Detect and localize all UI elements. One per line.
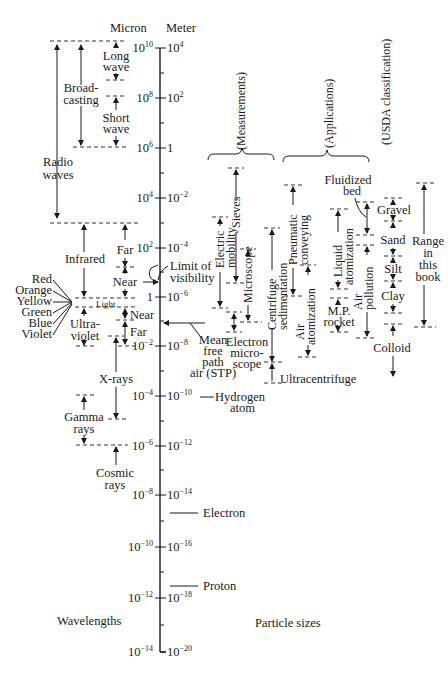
- micron-tick-label: 10−10: [128, 539, 153, 554]
- electron-label: Electron: [203, 506, 246, 520]
- sieves-label: Sieves: [229, 196, 243, 228]
- hydrogen-atom-label-2: atom: [230, 401, 255, 415]
- particle-size-wavelength-chart: Micron Meter 1010104108102106110410−2102…: [0, 0, 448, 676]
- micron-tick-label: 1010: [133, 40, 154, 55]
- micron-tick-label: 102: [137, 240, 154, 255]
- radio-waves-label-1: Radio: [43, 155, 73, 169]
- ultracentrifuge-label: Ultracentrifuge: [280, 372, 357, 386]
- meter-tick-label: 10−4: [167, 240, 188, 255]
- sand-label: Sand: [381, 233, 407, 247]
- micron-tick-label: 10−2: [132, 338, 153, 353]
- wavelengths-caption: Wavelengths: [57, 614, 121, 628]
- log-axis: 1010104108102106110410−210210−4110−610−2…: [128, 40, 192, 659]
- micron-header: Micron: [110, 21, 148, 35]
- group-headers: (Measurements) (Applications) (USDA clas…: [208, 39, 393, 162]
- infrared-label: Infrared: [65, 252, 106, 266]
- clay-label: Clay: [381, 289, 405, 303]
- short-wave-label-2: wave: [103, 122, 130, 136]
- electron-microscope-label-3: scope: [233, 357, 262, 371]
- meter-tick-label: 102: [167, 90, 184, 105]
- gamma-rays-label-2: rays: [74, 422, 95, 436]
- micron-tick-label: 10−14: [128, 644, 153, 659]
- ultraviolet-label-2: violet: [71, 329, 100, 343]
- micron-tick-label: 108: [137, 90, 154, 105]
- mp-rocket-label-2: rocket: [323, 315, 355, 329]
- meter-tick-label: 1: [167, 141, 173, 155]
- micron-tick-label: 10−6: [132, 438, 153, 453]
- pneumatic-conveying-label-2: conveying: [297, 215, 311, 265]
- light-label: Light: [96, 299, 116, 309]
- uv-far-label: Far: [130, 325, 148, 339]
- limit-of-visibility-label-2: visibility: [170, 271, 215, 285]
- color-violet: Violet: [22, 327, 53, 341]
- particle-sizes-caption: Particle sizes: [255, 616, 321, 630]
- meter-tick-label: 10−18: [167, 590, 192, 605]
- micron-tick-label: 1: [147, 290, 153, 304]
- fluidized-bed-label-2: bed: [343, 184, 362, 198]
- radio-waves-label-2: waves: [42, 168, 73, 182]
- meter-tick-label: 10−8: [167, 338, 188, 353]
- x-rays-label: X-rays: [99, 372, 133, 386]
- usda-header: (USDA classification): [379, 39, 393, 145]
- air-atomization-label-2: atomization: [304, 288, 318, 345]
- micron-tick-label: 10−12: [128, 590, 153, 605]
- measurements-header: (Measurements): [234, 72, 248, 150]
- electric-mobility-label-2: mobility: [224, 227, 238, 268]
- visible-colors: Red Orange Yellow Green Blue Violet: [15, 272, 72, 341]
- application-ranges: Pneumatic conveying Air atomization Liqu…: [284, 173, 376, 357]
- meter-tick-label: 10−2: [167, 190, 188, 205]
- air-pollution-label-2: pollution: [362, 267, 376, 310]
- meter-tick-label: 10−20: [167, 644, 192, 659]
- micron-tick-label: 106: [137, 140, 154, 155]
- meter-tick-label: 10−14: [167, 487, 192, 502]
- mean-free-path-label-4: air (STP): [190, 366, 236, 380]
- meter-tick-label: 10−10: [167, 388, 192, 403]
- range-label-4: book: [416, 270, 442, 284]
- meter-tick-label: 104: [167, 40, 184, 55]
- cosmic-rays-label-2: rays: [105, 478, 126, 492]
- proton-label: Proton: [203, 579, 237, 593]
- microscope-label: Microscope: [241, 246, 255, 303]
- meter-tick-label: 10−12: [167, 438, 192, 453]
- wavelength-ranges: Radio waves Broad- casting Long wave Sho…: [15, 41, 155, 492]
- colloid-label: Colloid: [373, 341, 411, 355]
- usda-ranges: Gravel Sand Silt Clay Colloid: [373, 198, 411, 376]
- long-wave-label-2: wave: [103, 60, 130, 74]
- broadcasting-label-2: casting: [63, 93, 99, 107]
- applications-header: (Applications): [322, 79, 336, 148]
- ir-near-label: Near: [113, 275, 138, 289]
- meter-header: Meter: [166, 21, 197, 35]
- micron-tick-label: 10−8: [132, 487, 153, 502]
- silt-label: Silt: [384, 262, 402, 276]
- ir-far-label: Far: [117, 243, 135, 257]
- liquid-atomization-label-2: atomization: [342, 228, 356, 285]
- meter-tick-label: 10−16: [167, 539, 192, 554]
- axis-markers: Limit of visibility Mean free path air (…: [143, 259, 266, 593]
- micron-tick-label: 10−4: [132, 388, 153, 403]
- book-range: Range in this book: [412, 183, 444, 327]
- gravel-label: Gravel: [377, 203, 412, 217]
- micron-tick-label: 104: [137, 190, 154, 205]
- meter-tick-label: 10−6: [167, 289, 188, 304]
